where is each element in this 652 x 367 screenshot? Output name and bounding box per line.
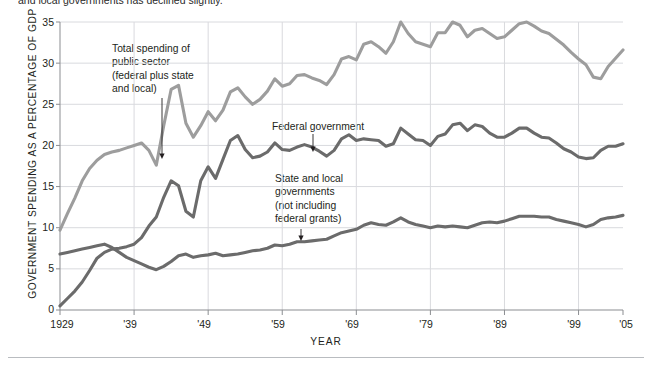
- annotation-arrows: [159, 98, 315, 241]
- data-series: [60, 22, 623, 306]
- plot-area: [0, 0, 652, 367]
- figure-chart: and local governments has declined sligh…: [0, 0, 652, 367]
